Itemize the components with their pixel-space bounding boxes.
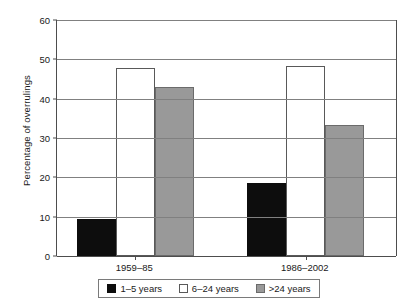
x-axis-category-label: 1986–2002 (281, 262, 329, 273)
legend-item[interactable]: 1–5 years (107, 283, 162, 294)
bar (247, 183, 286, 256)
gridline (57, 217, 396, 218)
x-tickmark (135, 256, 136, 260)
y-tick-label: 10 (39, 211, 57, 222)
y-tick-label: 0 (45, 251, 57, 262)
bar (116, 68, 155, 256)
legend-swatch-icon (107, 284, 116, 293)
x-axis-baseline (57, 256, 396, 257)
legend-label: 1–5 years (120, 283, 162, 294)
legend-swatch-icon (179, 284, 188, 293)
gridline (57, 177, 396, 178)
gridline (57, 99, 396, 100)
gridline (57, 138, 396, 139)
legend-label: >24 years (269, 283, 311, 294)
bar (325, 125, 364, 256)
bar-chart: Percentage of overrulings 0102030405060 … (0, 0, 410, 307)
gridline (57, 20, 396, 21)
plot-area: 0102030405060 (56, 20, 397, 256)
bar (286, 66, 325, 256)
y-tick-label: 20 (39, 172, 57, 183)
y-tick-label: 60 (39, 15, 57, 26)
chart-legend: 1–5 years6–24 years>24 years (98, 279, 320, 298)
x-axis-category-label: 1959–85 (116, 262, 153, 273)
bar (155, 87, 194, 256)
legend-item[interactable]: >24 years (256, 283, 311, 294)
y-tick-label: 30 (39, 133, 57, 144)
bar (77, 219, 116, 256)
legend-swatch-icon (256, 284, 265, 293)
y-tick-label: 50 (39, 54, 57, 65)
y-tick-label: 40 (39, 93, 57, 104)
legend-label: 6–24 years (192, 283, 239, 294)
x-tickmark (306, 256, 307, 260)
gridline (57, 59, 396, 60)
legend-item[interactable]: 6–24 years (179, 283, 239, 294)
y-axis-title: Percentage of overrulings (21, 41, 32, 221)
